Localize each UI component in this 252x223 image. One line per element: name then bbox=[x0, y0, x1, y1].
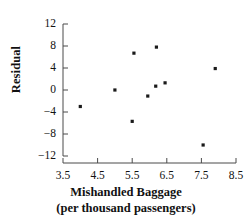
data-point bbox=[214, 67, 217, 70]
data-point bbox=[155, 46, 158, 49]
data-point bbox=[202, 143, 205, 146]
data-point bbox=[146, 94, 149, 97]
data-point bbox=[132, 52, 135, 55]
data-point bbox=[154, 85, 157, 88]
data-point bbox=[131, 120, 134, 123]
axes bbox=[63, 24, 236, 163]
data-point bbox=[113, 88, 116, 91]
data-points bbox=[79, 46, 217, 147]
x-axis-label-line2: (per thousand passengers) bbox=[0, 201, 252, 216]
scatter-plot-figure: Residual 12840−4−8−12 3.54.55.56.57.58.5… bbox=[0, 0, 252, 223]
data-point bbox=[163, 81, 166, 84]
data-point bbox=[79, 105, 82, 108]
x-axis-label-line1: Mishandled Baggage bbox=[0, 185, 252, 200]
